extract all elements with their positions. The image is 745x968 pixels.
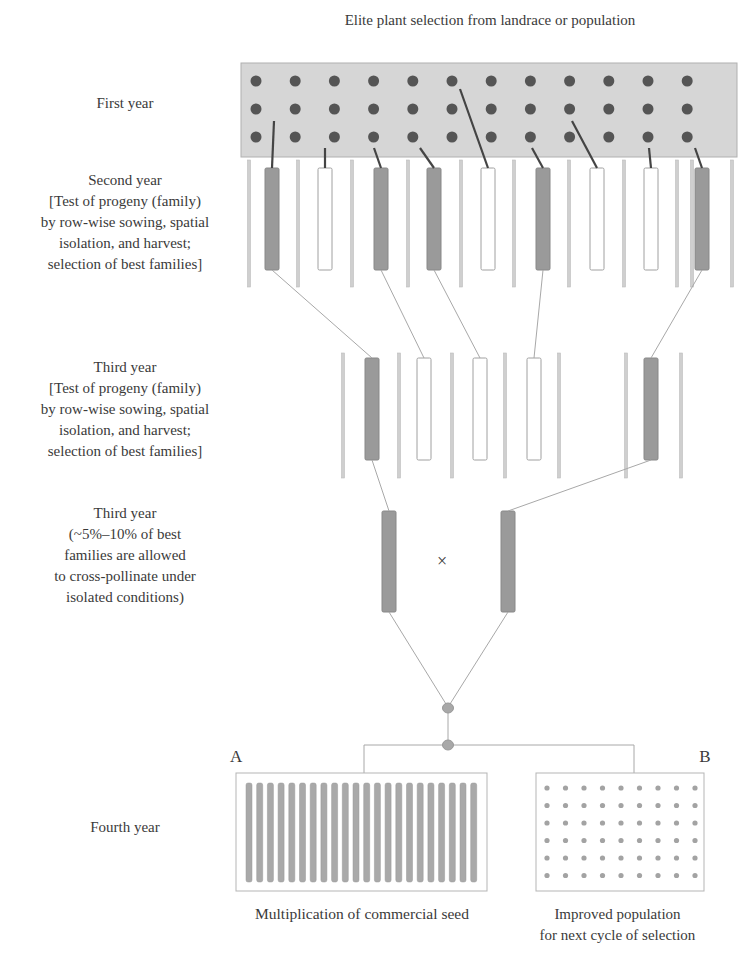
population-plant-dot <box>674 855 679 860</box>
stage-label-line: [Test of progeny (family) <box>0 378 250 399</box>
commercial-seed-row <box>289 783 295 882</box>
stage-label-line: selection of best families] <box>0 254 250 275</box>
stage-label-line: Third year <box>0 357 250 378</box>
crossing-plot-left <box>382 511 396 612</box>
stage-label-line: selection of best families] <box>0 441 250 462</box>
guard-row <box>407 160 410 287</box>
guard-row <box>691 160 694 287</box>
elite-plant-dot <box>290 104 301 115</box>
stage-label-line: isolation, and harvest; <box>0 233 250 254</box>
third-year-plot-rejected <box>473 358 487 460</box>
second-year-plot-selected <box>695 168 709 270</box>
elite-plant-dot <box>368 76 379 87</box>
best-family-link <box>508 460 651 511</box>
guard-row <box>731 160 734 287</box>
commercial-seed-row <box>353 783 359 882</box>
population-plant-dot <box>618 855 623 860</box>
population-plant-dot <box>563 785 568 790</box>
third-year-plot-selected <box>365 358 379 460</box>
stage-label-second-year: Second year [Test of progeny (family) by… <box>0 170 250 275</box>
elite-plant-dot <box>407 104 418 115</box>
stage-label-third-year-test: Third year [Test of progeny (family) by … <box>0 357 250 462</box>
title-text: Elite plant selection from landrace or p… <box>250 10 730 31</box>
population-plant-dot <box>618 820 623 825</box>
population-plant-dot <box>674 820 679 825</box>
guard-row <box>676 160 679 287</box>
elite-plant-dot <box>251 132 262 143</box>
elite-plant-dot <box>525 76 536 87</box>
elite-plant-dot <box>447 132 458 143</box>
population-plant-dot <box>581 803 586 808</box>
outcome-b-letter: B <box>690 746 720 767</box>
population-plant-dot <box>655 873 660 878</box>
best-family-link <box>372 460 389 511</box>
second-year-plot-rejected <box>481 168 495 270</box>
elite-plant-dot <box>682 76 693 87</box>
stage-label-third-year-cross: Third year (~5%–10% of best families are… <box>0 503 250 608</box>
elite-plant-dot <box>486 132 497 143</box>
stage-label-fourth-year: Fourth year <box>0 817 250 838</box>
stage-label-line: isolation, and harvest; <box>0 420 250 441</box>
seed-node <box>443 740 454 750</box>
population-plant-dot <box>637 838 642 843</box>
merge-link <box>389 612 446 704</box>
second-year-plot-selected <box>265 168 279 270</box>
commercial-seed-row <box>460 783 466 882</box>
population-plant-dot <box>544 873 549 878</box>
guard-row <box>558 353 561 478</box>
outcome-b-caption-line: for next cycle of selection <box>505 925 730 946</box>
seed-node <box>443 703 454 713</box>
population-plant-dot <box>563 855 568 860</box>
population-plant-dot <box>563 838 568 843</box>
elite-plant-dot <box>486 104 497 115</box>
progeny-link <box>434 270 480 358</box>
stage-label-line: First year <box>0 93 250 114</box>
population-plant-dot <box>563 803 568 808</box>
guard-row <box>568 160 571 287</box>
population-plant-dot <box>581 873 586 878</box>
population-plant-dot <box>692 803 697 808</box>
commercial-seed-row <box>439 783 445 882</box>
population-plant-dot <box>637 803 642 808</box>
population-plant-dot <box>674 873 679 878</box>
stage-label-line: [Test of progeny (family) <box>0 191 250 212</box>
second-year-plot-selected <box>374 168 388 270</box>
outcome-b-caption-line: Improved population <box>505 904 730 925</box>
commercial-seed-row <box>332 783 338 882</box>
second-year-plot-selected <box>427 168 441 270</box>
population-plant-dot <box>637 820 642 825</box>
outcome-a-caption-text: Multiplication of commercial seed <box>222 903 502 924</box>
elite-plant-dot <box>329 76 340 87</box>
elite-plant-dot <box>525 132 536 143</box>
guard-row <box>513 160 516 287</box>
population-plant-dot <box>692 820 697 825</box>
population-plant-dot <box>692 855 697 860</box>
elite-plant-dot <box>564 76 575 87</box>
elite-plant-dot <box>603 104 614 115</box>
guard-row <box>451 353 454 478</box>
population-plant-dot <box>600 803 605 808</box>
population-plant-dot <box>544 855 549 860</box>
elite-plant-dot <box>682 132 693 143</box>
elite-plant-dot <box>290 76 301 87</box>
population-plant-dot <box>692 838 697 843</box>
population-plant-dot <box>544 820 549 825</box>
commercial-seed-row <box>417 783 423 882</box>
third-year-plot-selected <box>644 358 658 460</box>
guard-row <box>351 160 354 287</box>
commercial-seed-row <box>407 783 413 882</box>
population-plant-dot <box>600 785 605 790</box>
commercial-seed-row <box>471 783 477 882</box>
population-plant-dot <box>563 820 568 825</box>
commercial-seed-row <box>257 783 263 882</box>
population-plant-dot <box>674 838 679 843</box>
elite-plant-dot <box>643 76 654 87</box>
outcome-a-letter-text: A <box>230 746 260 767</box>
third-year-plot-rejected <box>527 358 541 460</box>
population-plant-dot <box>655 803 660 808</box>
commercial-seed-row <box>267 783 273 882</box>
population-plant-dot <box>692 873 697 878</box>
population-plant-dot <box>600 838 605 843</box>
progeny-link <box>381 270 424 358</box>
elite-plant-dot <box>682 104 693 115</box>
